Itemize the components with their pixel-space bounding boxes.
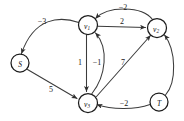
edge-weight-s-v3: 5: [49, 85, 53, 94]
edge-weight-t-v3: −2: [120, 99, 129, 108]
node-s-label: S: [18, 59, 22, 68]
edge-weight-v1-v2: 2: [120, 17, 124, 26]
edge-v1-to-s: [22, 19, 79, 53]
edge-v1-to-v2: [98, 26, 146, 27]
edge-weight-v3-v1: −1: [93, 58, 102, 67]
edge-weight-v3-v2: 7: [121, 58, 125, 67]
edge-weight-v1-v3: 1: [78, 58, 82, 67]
edge-weight-v2-v1: −2: [119, 3, 128, 12]
directed-graph-figure: S v1 v2 v3 T −3 −2 2 1 −1: [0, 0, 184, 121]
edge-weight-v1-s: −3: [38, 17, 47, 26]
edge-t-to-v2: [165, 35, 174, 95]
graph-canvas: S v1 v2 v3 T −3 −2 2 1 −1: [0, 0, 184, 121]
